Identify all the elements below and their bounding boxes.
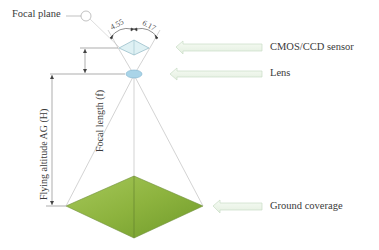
camera-geometry-diagram (0, 0, 379, 250)
lens-pointer-arrow (170, 68, 262, 80)
ground-coverage-label: Ground coverage (270, 200, 343, 211)
focal-plane-label: Focal plane (12, 8, 61, 19)
focal-length-dimension (50, 48, 125, 74)
sensor-label: CMOS/CCD sensor (270, 41, 354, 52)
focal-length-label: Focal length (f) (94, 90, 105, 152)
ground-coverage-shape (66, 176, 203, 238)
flying-altitude-label: Flying altitude AG (H) (38, 109, 49, 200)
sensor-shape (119, 40, 149, 55)
lens-shape (126, 70, 142, 78)
lens-label: Lens (270, 67, 290, 78)
flying-altitude-dimension (46, 75, 66, 206)
ground-pointer-arrow (213, 200, 262, 213)
sensor-pointer-arrow (176, 41, 262, 54)
